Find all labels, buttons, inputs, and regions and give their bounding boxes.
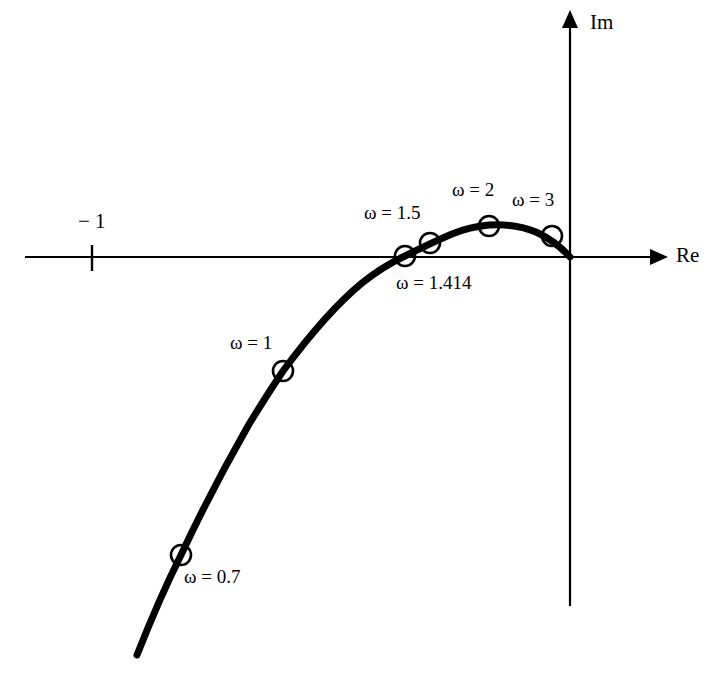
marker-omega-0-7	[171, 545, 191, 565]
nyquist-response-curve	[137, 225, 570, 655]
point-label-omega-1-414: ω = 1.414	[396, 273, 471, 292]
imaginary-axis-arrow-icon	[562, 10, 578, 28]
point-label-omega-0-7: ω = 0.7	[184, 567, 240, 586]
point-label-omega-3: ω = 3	[512, 190, 554, 209]
imaginary-axis	[562, 10, 578, 606]
imaginary-axis-label: Im	[590, 12, 613, 33]
real-axis-arrow-icon	[650, 249, 668, 265]
point-label-omega-1: ω = 1	[230, 333, 272, 352]
nyquist-plot-figure: Im Re − 1 ω = 0.7 ω = 1 ω = 1.414 ω = 1.…	[0, 0, 726, 677]
real-axis-label: Re	[676, 245, 699, 266]
nyquist-plot-canvas	[0, 0, 726, 677]
point-label-omega-1-5: ω = 1.5	[364, 203, 420, 222]
point-label-omega-2: ω = 2	[452, 180, 494, 199]
frequency-markers	[171, 216, 562, 565]
tick-label-minus-one: − 1	[78, 211, 106, 232]
